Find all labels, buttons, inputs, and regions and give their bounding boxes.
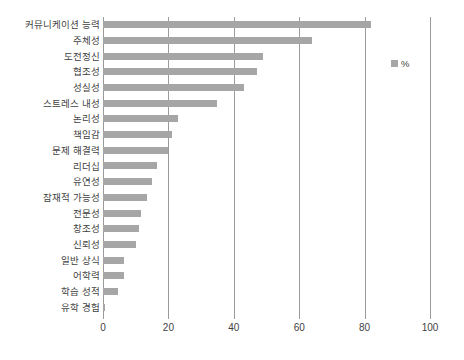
legend: % bbox=[391, 58, 409, 69]
bar-12 bbox=[103, 194, 147, 201]
bar-13 bbox=[103, 210, 141, 217]
x-tick-mark-20 bbox=[168, 315, 169, 319]
bar-18 bbox=[103, 288, 118, 295]
x-tick-label-80: 80 bbox=[359, 322, 370, 334]
bar-7 bbox=[103, 115, 178, 122]
legend-label-percent: % bbox=[401, 58, 409, 69]
category-label: 일반 상식 bbox=[0, 255, 100, 266]
bar-4 bbox=[103, 68, 257, 75]
bar-row bbox=[103, 299, 430, 315]
bar-3 bbox=[103, 53, 263, 60]
plot-area bbox=[103, 17, 430, 315]
bar-19 bbox=[103, 304, 105, 311]
bar-row bbox=[103, 221, 430, 237]
x-tick-mark-80 bbox=[365, 315, 366, 319]
bar-row bbox=[103, 48, 430, 64]
bar-row bbox=[103, 190, 430, 206]
x-tick-label-40: 40 bbox=[228, 322, 239, 334]
x-tick-label-60: 60 bbox=[294, 322, 305, 334]
category-label: 신뢰성 bbox=[0, 239, 100, 250]
bar-16 bbox=[103, 257, 124, 264]
bar-row bbox=[103, 284, 430, 300]
category-label: 도전정신 bbox=[0, 51, 100, 62]
bar-11 bbox=[103, 178, 152, 185]
bar-1 bbox=[103, 21, 371, 28]
bar-row bbox=[103, 64, 430, 80]
bar-row bbox=[103, 95, 430, 111]
category-label: 주체성 bbox=[0, 35, 100, 46]
bar-row bbox=[103, 111, 430, 127]
bar-14 bbox=[103, 225, 139, 232]
bar-8 bbox=[103, 131, 172, 138]
bar-row bbox=[103, 127, 430, 143]
category-axis-labels: 커뮤니케이션 능력주체성도전정신협조성성실성스트레스 내성논리성책임감문제 해결… bbox=[0, 17, 100, 315]
category-label: 창조성 bbox=[0, 223, 100, 234]
bars-layer bbox=[103, 17, 430, 315]
category-label: 스트레스 내성 bbox=[0, 98, 100, 109]
bar-row bbox=[103, 80, 430, 96]
category-label: 책임감 bbox=[0, 129, 100, 140]
category-label: 학습 성적 bbox=[0, 286, 100, 297]
x-axis: 020406080100 bbox=[103, 315, 430, 345]
x-tick-mark-60 bbox=[299, 315, 300, 319]
bar-row bbox=[103, 268, 430, 284]
x-tick-mark-40 bbox=[234, 315, 235, 319]
category-label: 협조성 bbox=[0, 66, 100, 77]
x-tick-label-100: 100 bbox=[422, 322, 439, 334]
category-label: 유학 경험 bbox=[0, 302, 100, 313]
bar-2 bbox=[103, 37, 312, 44]
category-label: 문제 해결력 bbox=[0, 145, 100, 156]
category-label: 어학력 bbox=[0, 270, 100, 281]
x-tick-label-20: 20 bbox=[163, 322, 174, 334]
bar-5 bbox=[103, 84, 244, 91]
x-tick-mark-100 bbox=[430, 315, 431, 319]
bar-6 bbox=[103, 100, 217, 107]
bar-row bbox=[103, 142, 430, 158]
category-label: 유연성 bbox=[0, 176, 100, 187]
x-tick-label-0: 0 bbox=[100, 322, 106, 334]
bar-row bbox=[103, 237, 430, 253]
bar-17 bbox=[103, 272, 124, 279]
bar-row bbox=[103, 174, 430, 190]
category-label: 전문성 bbox=[0, 208, 100, 219]
bar-row bbox=[103, 252, 430, 268]
bar-chart: 커뮤니케이션 능력주체성도전정신협조성성실성스트레스 내성논리성책임감문제 해결… bbox=[0, 0, 464, 360]
legend-swatch-percent bbox=[391, 60, 398, 67]
category-label: 논리성 bbox=[0, 113, 100, 124]
category-label: 리더십 bbox=[0, 161, 100, 172]
bar-15 bbox=[103, 241, 136, 248]
bar-row bbox=[103, 17, 430, 33]
category-label: 잠재적 가능성 bbox=[0, 192, 100, 203]
bar-9 bbox=[103, 147, 168, 154]
bar-row bbox=[103, 158, 430, 174]
category-label: 커뮤니케이션 능력 bbox=[0, 19, 100, 30]
gridline-100 bbox=[430, 17, 431, 315]
x-tick-mark-0 bbox=[103, 315, 104, 319]
bar-row bbox=[103, 33, 430, 49]
bar-row bbox=[103, 205, 430, 221]
category-label: 성실성 bbox=[0, 82, 100, 93]
bar-10 bbox=[103, 162, 157, 169]
